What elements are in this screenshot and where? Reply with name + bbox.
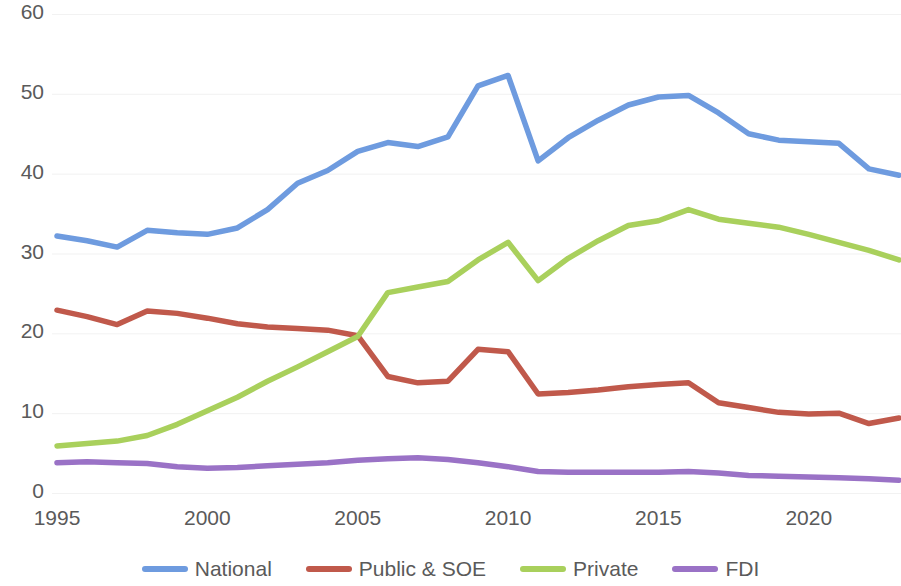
legend-swatch-icon — [306, 566, 352, 572]
legend-label: FDI — [725, 557, 759, 581]
chart-legend: NationalPublic & SOEPrivateFDI — [0, 552, 901, 586]
legend-label: National — [195, 557, 272, 581]
x-axis-tick-label: 2005 — [318, 506, 398, 530]
series-line-public-soe — [57, 310, 899, 423]
legend-swatch-icon — [142, 566, 188, 572]
series-line-national — [57, 75, 899, 247]
legend-item[interactable]: Private — [520, 557, 638, 581]
x-axis-tick-label: 2000 — [167, 506, 247, 530]
x-axis-tick-label: 1995 — [17, 506, 97, 530]
series-line-fdi — [57, 458, 899, 480]
legend-item[interactable]: FDI — [672, 557, 759, 581]
x-axis-tick-label: 2010 — [468, 506, 548, 530]
series-lines — [57, 75, 899, 480]
line-chart: 0102030405060 199520002005201020152020 N… — [0, 0, 901, 586]
legend-swatch-icon — [672, 566, 718, 572]
legend-swatch-icon — [520, 566, 566, 572]
legend-label: Private — [573, 557, 638, 581]
legend-item[interactable]: National — [142, 557, 272, 581]
legend-item[interactable]: Public & SOE — [306, 557, 486, 581]
x-axis-tick-label: 2020 — [769, 506, 849, 530]
plot-area — [0, 0, 901, 586]
x-axis-tick-label: 2015 — [618, 506, 698, 530]
legend-label: Public & SOE — [359, 557, 486, 581]
